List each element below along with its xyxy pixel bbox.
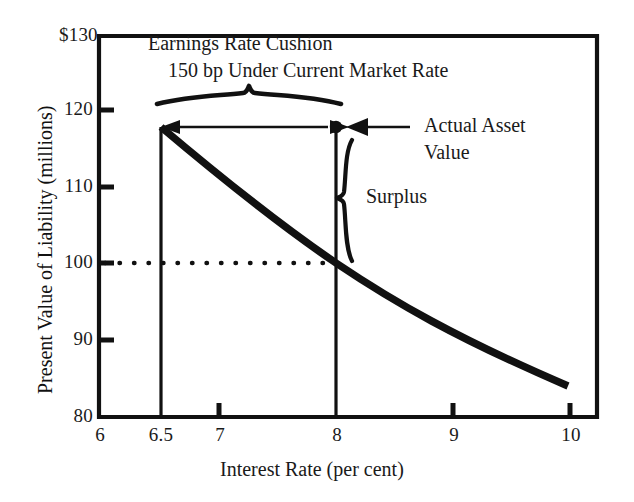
x-tick-label-9: 9: [444, 424, 464, 446]
cushion-span-arrow: [161, 120, 349, 134]
x-tick-label-10: 10: [556, 424, 586, 446]
x-tick-label-7: 7: [210, 424, 230, 446]
y-tick-label-110: 110: [55, 175, 93, 197]
y-axis-ticks: [99, 110, 114, 340]
liability-curve: [161, 127, 568, 386]
plot-frame: [99, 36, 597, 417]
surplus-label: Surplus: [366, 185, 427, 208]
y-tick-label-90: 90: [55, 328, 93, 350]
y-tick-label-100: 100: [55, 251, 93, 273]
y-tick-label-80: 80: [55, 405, 93, 427]
actual-asset-value-label-line1: Actual Asset: [424, 114, 526, 137]
x-tick-label-6: 6: [90, 424, 110, 446]
actual-asset-value-leader: [346, 118, 410, 136]
actual-asset-value-point: [330, 121, 342, 133]
cushion-brace: [157, 86, 341, 104]
surplus-brace: [337, 140, 352, 261]
x-tick-label-6-5: 6.5: [141, 424, 181, 446]
cushion-label-line1: Earnings Rate Cushion: [148, 32, 332, 55]
x-axis-title: Interest Rate (per cent): [220, 458, 404, 481]
y-tick-label-130: $130: [59, 24, 95, 46]
y-tick-label-120: 120: [55, 98, 93, 120]
actual-asset-value-label-line2: Value: [424, 141, 470, 164]
y-axis-title: Present Value of Liability (millions): [34, 106, 57, 394]
cushion-label-line2: 150 bp Under Current Market Rate: [168, 59, 448, 82]
x-tick-label-8: 8: [327, 424, 347, 446]
